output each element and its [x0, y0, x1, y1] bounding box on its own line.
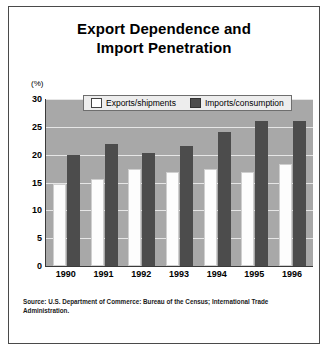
bar-imports [180, 146, 193, 266]
legend-item-imports: Imports/consumption [190, 98, 284, 108]
chart-figure: Export Dependence and Import Penetration… [8, 6, 320, 344]
x-tick-label: 1992 [128, 269, 155, 283]
bar-exports [53, 184, 66, 266]
bar-imports [218, 132, 231, 266]
bar-group [128, 99, 155, 266]
bar-imports [105, 144, 118, 266]
bar-imports [142, 153, 155, 266]
bar-exports [204, 169, 217, 266]
legend-swatch-imports-icon [190, 98, 201, 108]
bar-exports [241, 172, 254, 266]
y-tick-label: 10 [32, 205, 42, 215]
x-tick-label: 1994 [203, 269, 230, 283]
bar-imports [293, 121, 306, 266]
bar-groups [46, 99, 313, 266]
y-tick-label: 30 [32, 94, 42, 104]
y-tick-label: 15 [32, 178, 42, 188]
chart-title-line-1: Export Dependence and [9, 19, 319, 38]
bar-exports [91, 179, 104, 266]
bar-group [166, 99, 193, 266]
x-tick-label: 1993 [165, 269, 192, 283]
y-tick-label: 25 [32, 122, 42, 132]
y-tick-label: 5 [37, 233, 42, 243]
bar-group [241, 99, 268, 266]
bar-group [91, 99, 118, 266]
chart-source: Source: U.S. Department of Commerce: Bur… [23, 297, 313, 315]
bar-exports [128, 169, 141, 266]
chart-legend: Exports/shipments Imports/consumption [83, 95, 292, 111]
bar-imports [67, 155, 80, 266]
bar-group [204, 99, 231, 266]
x-tick-label: 1995 [241, 269, 268, 283]
x-axis-labels: 1990199119921993199419951996 [45, 269, 313, 283]
bar-imports [255, 121, 268, 266]
plot-area: 302520151050 [45, 99, 313, 267]
x-tick-label: 1990 [52, 269, 79, 283]
legend-item-exports: Exports/shipments [91, 98, 176, 108]
bar-exports [279, 164, 292, 266]
x-tick-label: 1996 [279, 269, 306, 283]
legend-label-exports: Exports/shipments [106, 98, 176, 108]
legend-label-imports: Imports/consumption [205, 98, 284, 108]
bar-group [53, 99, 80, 266]
bar-group [279, 99, 306, 266]
y-axis-label: (%) [31, 79, 43, 88]
y-tick-label: 20 [32, 150, 42, 160]
chart-title: Export Dependence and Import Penetration [9, 19, 319, 57]
chart-title-line-2: Import Penetration [9, 38, 319, 57]
bar-exports [166, 172, 179, 266]
y-tick-label: 0 [37, 261, 42, 271]
legend-swatch-exports-icon [91, 98, 102, 108]
x-tick-label: 1991 [90, 269, 117, 283]
